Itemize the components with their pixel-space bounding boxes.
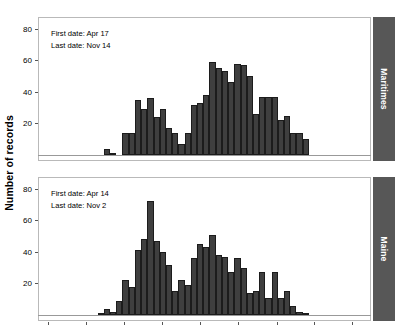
y-tick-mark (35, 283, 38, 284)
panel-strip-label: Maine (379, 236, 389, 261)
y-tick-label: 80 (23, 184, 32, 193)
y-axis-label: Number of records (2, 0, 16, 325)
y-tick-label: 80 (23, 24, 32, 33)
panel-annotation: Last date: Nov 14 (51, 40, 111, 52)
y-tick-label: 20 (23, 279, 32, 288)
y-tick-label: 60 (23, 56, 32, 65)
y-tick-mark (35, 60, 38, 61)
y-tick-mark (35, 123, 38, 124)
histogram-bar (303, 139, 309, 155)
y-tick-mark (35, 29, 38, 30)
y-tick-label: 40 (23, 247, 32, 256)
panel-annotation: First date: Apr 14 (51, 188, 109, 200)
panel-strip-maritimes: Maritimes (373, 17, 395, 161)
y-tick-mark (35, 220, 38, 221)
y-tick-mark (35, 252, 38, 253)
y-tick-label: 40 (23, 87, 32, 96)
panel-annotation: First date: Apr 17 (51, 28, 109, 40)
panel-strip-maine: Maine (373, 177, 395, 321)
panel-baseline (38, 315, 371, 316)
y-tick-label: 20 (23, 119, 32, 128)
y-tick-mark (35, 92, 38, 93)
y-tick-label: 60 (23, 216, 32, 225)
y-tick-mark (35, 189, 38, 190)
panel-annotation: Last date: Nov 2 (51, 200, 106, 212)
panel-baseline (38, 155, 371, 156)
histogram-figure: Number of records MaritimesFirst date: A… (0, 0, 410, 325)
panel-strip-label: Maritimes (379, 68, 389, 109)
